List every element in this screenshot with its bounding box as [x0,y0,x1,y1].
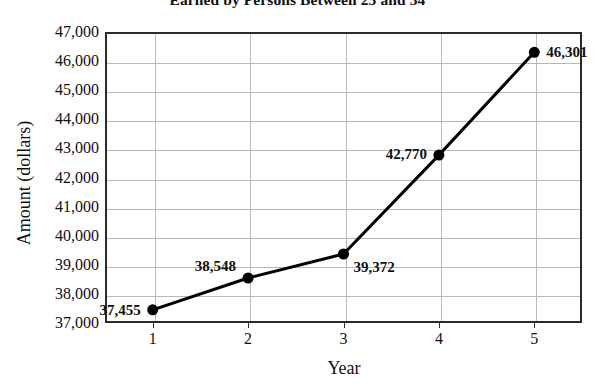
gridline-horizontal [107,150,580,151]
y-axis-tick-label: 40,000 [31,228,99,244]
x-axis-tick-mark [248,323,249,328]
gridline-vertical [346,34,347,321]
data-point-label: 38,548 [195,258,236,273]
x-axis-tick-mark [344,323,345,328]
gridline-horizontal [107,267,580,268]
chart-figure: Earned by Persons Between 25 and 34 Amou… [0,0,595,390]
data-point-label: 37,455 [99,302,140,317]
data-point-label: 42,770 [386,147,427,162]
x-axis-tick-label: 5 [514,331,554,347]
gridline-horizontal [107,209,580,210]
gridline-vertical [250,34,251,321]
y-axis-tick-label: 42,000 [31,170,99,186]
y-axis-tick-label: 47,000 [31,24,99,40]
y-axis-tick-label: 45,000 [31,82,99,98]
y-axis-tick-label: 39,000 [31,257,99,273]
gridline-horizontal [107,121,580,122]
gridline-horizontal [107,296,580,297]
x-axis-tick-label: 4 [419,331,459,347]
x-axis-tick-mark [534,323,535,328]
gridline-horizontal [107,180,580,181]
x-axis-tick-label: 3 [324,331,364,347]
x-axis-title: Year [105,358,583,379]
x-axis-tick-label: 2 [228,331,268,347]
y-axis-tick-label: 38,000 [31,286,99,302]
gridline-horizontal [107,63,580,64]
x-axis-tick-mark [153,323,154,328]
gridline-vertical [155,34,156,321]
y-axis-tick-label: 43,000 [31,140,99,156]
x-axis-tick-marks [0,323,595,329]
gridline-horizontal [107,238,580,239]
gridline-vertical [441,34,442,321]
data-point-label: 39,372 [354,259,395,274]
gridline-vertical [536,34,537,321]
y-axis-tick-label: 44,000 [31,111,99,127]
x-axis-tick-labels: 12345 [0,331,595,353]
y-axis-tick-label: 41,000 [31,199,99,215]
gridline-horizontal [107,92,580,93]
x-axis-tick-mark [439,323,440,328]
data-point-label: 46,301 [546,45,587,60]
y-axis-tick-label: 46,000 [31,53,99,69]
x-axis-tick-label: 1 [133,331,173,347]
plot-area [105,32,582,323]
